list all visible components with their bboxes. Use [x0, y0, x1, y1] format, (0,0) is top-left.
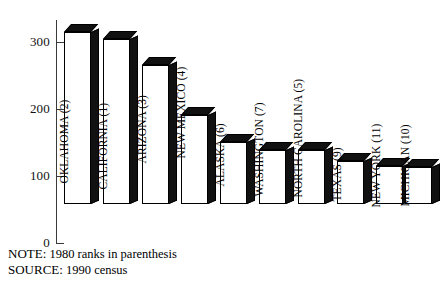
y-axis-tick-0 [56, 243, 64, 244]
footnote-source: SOURCE: 1990 census [8, 262, 438, 278]
category-label-oklahoma: OKLAHOMA (2) [59, 100, 71, 184]
y-axis-tick-300 [56, 42, 64, 43]
bar-chart-figure: 300 200 100 0 [0, 0, 446, 285]
footnote-note-prefix: NOTE: [8, 246, 46, 261]
category-label-arizona: ARIZONA (3) [137, 95, 149, 164]
category-label-texas: TEXAS (9) [332, 147, 344, 201]
y-axis-label-100: 100 [8, 169, 50, 182]
footnote-source-prefix: SOURCE: [8, 262, 63, 277]
plot-area: 300 200 100 0 [0, 0, 446, 246]
footnote-source-text: 1990 census [66, 263, 127, 277]
category-label-new-york: NEW YORK (11) [371, 124, 383, 208]
bar-side-face [432, 163, 440, 204]
chart-footnotes: NOTE: 1980 ranks in parenthesis SOURCE: … [8, 246, 438, 278]
category-label-michigan: MICHIGAN (10) [400, 124, 412, 206]
y-axis-label-300: 300 [8, 35, 50, 48]
category-label-washington: WASHINGTON (7) [254, 102, 266, 196]
category-label-alaska: ALASKA (6) [215, 123, 227, 186]
footnote-note: NOTE: 1980 ranks in parenthesis [8, 246, 438, 262]
category-label-north-carolina: NORTH CAROLINA (5) [293, 79, 305, 198]
category-label-new-mexico: NEW MEXICO (4) [176, 67, 188, 159]
footnote-note-text: 1980 ranks in parenthesis [49, 247, 176, 261]
category-label-california: CALIFORNIA (1) [98, 103, 110, 190]
y-axis-label-200: 200 [8, 102, 50, 115]
